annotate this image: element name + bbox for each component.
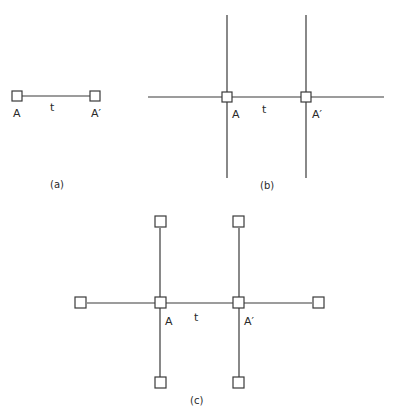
panel-a: A t A′ (a) [12,91,102,190]
panel-caption: (a) [50,179,64,190]
site-a-node [155,297,166,308]
site-a-prime-node [233,297,244,308]
site-a-node [222,92,232,102]
site-a-prime-node [301,92,311,102]
panel-b: A t A′ (b) [148,15,384,191]
site-a-label: A [165,315,173,328]
bond-t-label: t [194,311,199,324]
panel-caption: (b) [260,180,274,191]
diagram-canvas: A t A′ (a) A t A′ (b) A t A′ (c) [0,0,397,415]
site-a-prime-node [90,91,100,101]
site-a-prime-label: A′ [91,107,102,120]
neighbor-node-top-a [155,216,166,227]
neighbor-node-bottom-a [155,377,166,388]
neighbor-node-top-a-prime [233,216,244,227]
neighbor-node-left [75,297,86,308]
panel-caption: (c) [190,395,203,406]
site-a-label: A [13,107,21,120]
site-a-label: A [232,108,240,121]
site-a-node [12,91,22,101]
panel-c: A t A′ (c) [75,216,324,406]
neighbor-node-right [313,297,324,308]
bond-t-label: t [262,103,267,116]
site-a-prime-label: A′ [244,315,255,328]
bond-t-label: t [50,101,55,114]
site-a-prime-label: A′ [312,108,323,121]
neighbor-node-bottom-a-prime [233,377,244,388]
